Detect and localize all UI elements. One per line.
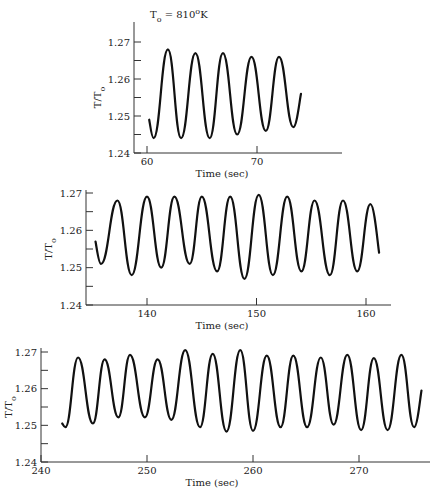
figure: 1.241.251.261.276070Time (sec)T/To1.241.…: [0, 0, 433, 496]
x-axis-title: Time (sec): [196, 168, 249, 179]
y-tick-label: 1.25: [108, 111, 130, 122]
x-tick-label: 240: [31, 465, 50, 476]
y-tick-label: 1.27: [60, 188, 82, 199]
y-tick-label: 1.25: [60, 262, 82, 273]
x-tick-label: 270: [349, 465, 368, 476]
chart-1: 1.241.251.261.276070Time (sec)T/To: [92, 22, 342, 179]
x-tick-label: 150: [247, 308, 266, 319]
y-tick-label: 1.26: [108, 74, 130, 85]
temperature-curve: [62, 350, 421, 431]
x-tick-label: 60: [141, 156, 154, 167]
chart-3: 1.241.251.261.27240250260270Time (sec)T/…: [3, 347, 430, 489]
x-axis-title: Time (sec): [196, 320, 249, 331]
temperature-curve: [96, 195, 380, 279]
y-tick-label: 1.25: [15, 420, 37, 431]
y-tick-label: 1.24: [60, 300, 82, 311]
y-tick-label: 1.26: [60, 225, 82, 236]
y-tick-label: 1.27: [15, 347, 37, 358]
chart-2: 1.241.251.261.27140150160Time (sec)T/To: [43, 188, 391, 332]
y-tick-label: 1.26: [15, 383, 37, 394]
x-tick-label: 250: [137, 465, 156, 476]
x-tick-label: 160: [356, 308, 375, 319]
y-axis-title: T/To: [43, 238, 58, 260]
y-tick-label: 1.24: [108, 148, 130, 159]
y-axis-title: T/To: [3, 396, 18, 418]
x-tick-label: 260: [243, 465, 262, 476]
y-tick-label: 1.27: [108, 37, 130, 48]
y-axis-title: T/To: [92, 87, 107, 109]
x-tick-label: 140: [137, 308, 156, 319]
temperature-annotation: To = 810oK: [150, 7, 208, 24]
x-axis-title: Time (sec): [186, 477, 239, 488]
x-tick-label: 70: [251, 156, 264, 167]
temperature-curve: [149, 49, 301, 138]
